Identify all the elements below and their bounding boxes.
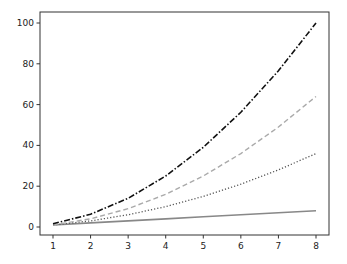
series-line-dashdot (53, 23, 316, 224)
plot-lines (53, 23, 316, 225)
x-tick-label: 3 (125, 241, 131, 251)
y-axis: 020406080100 (17, 18, 40, 232)
x-tick-label: 2 (88, 241, 94, 251)
y-tick-label: 100 (17, 18, 34, 28)
y-tick-label: 20 (23, 181, 35, 191)
x-tick-label: 8 (313, 241, 319, 251)
y-tick-label: 60 (23, 100, 35, 110)
y-tick-label: 40 (23, 140, 35, 150)
y-tick-label: 0 (28, 222, 34, 232)
y-tick-label: 80 (23, 59, 35, 69)
x-axis: 12345678 (50, 235, 319, 251)
x-tick-label: 6 (238, 241, 244, 251)
x-tick-label: 5 (200, 241, 206, 251)
plot-frame (40, 12, 329, 235)
x-tick-label: 7 (276, 241, 282, 251)
line-chart: 12345678 020406080100 (0, 0, 347, 264)
x-tick-label: 4 (163, 241, 169, 251)
x-tick-label: 1 (50, 241, 56, 251)
